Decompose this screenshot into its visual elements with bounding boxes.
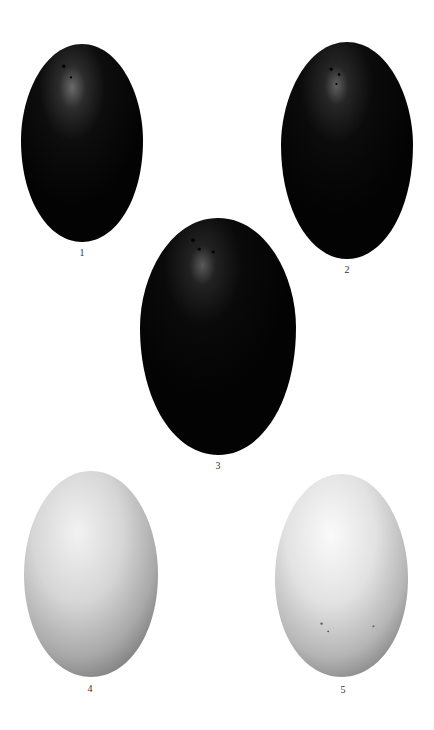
egg-specimen-4	[24, 471, 158, 677]
egg-specimen-3	[140, 218, 296, 455]
egg-number-label-5: 5	[333, 684, 353, 696]
egg-4-shape	[24, 471, 158, 677]
egg-number-label-3: 3	[208, 460, 228, 472]
egg-5-shape	[275, 474, 408, 677]
egg-specimen-2	[281, 42, 413, 259]
egg-specimen-1	[21, 44, 143, 242]
egg-1-shape	[21, 44, 143, 242]
egg-number-label-1: 1	[72, 247, 92, 259]
egg-specimen-5	[275, 474, 408, 677]
egg-2-shape	[281, 42, 413, 259]
egg-plate: 1 2	[0, 0, 434, 730]
egg-number-label-4: 4	[80, 683, 100, 695]
egg-3-shape	[140, 218, 296, 455]
egg-number-label-2: 2	[337, 264, 357, 276]
